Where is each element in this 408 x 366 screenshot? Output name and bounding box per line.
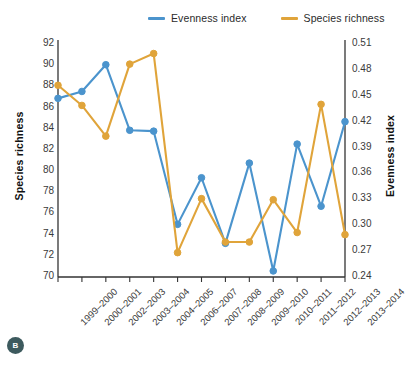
chart-container: Evenness index Species richness Species …	[0, 0, 408, 366]
data-point[interactable]	[246, 239, 253, 246]
data-point[interactable]	[55, 95, 62, 102]
data-point[interactable]	[342, 118, 349, 125]
series-line	[58, 65, 345, 271]
data-point[interactable]	[126, 61, 133, 68]
series-species-richness	[55, 50, 349, 256]
data-point[interactable]	[55, 82, 62, 89]
data-point[interactable]	[318, 101, 325, 108]
data-point[interactable]	[294, 141, 301, 148]
data-point[interactable]	[318, 203, 325, 210]
data-point[interactable]	[198, 174, 205, 181]
data-point[interactable]	[79, 102, 86, 109]
data-point[interactable]	[222, 239, 229, 246]
data-point[interactable]	[246, 160, 253, 167]
series-line	[58, 54, 345, 253]
data-point[interactable]	[270, 196, 277, 203]
plot-area	[0, 0, 408, 366]
data-point[interactable]	[270, 268, 277, 275]
data-point[interactable]	[103, 133, 110, 140]
panel-badge: B	[7, 337, 24, 354]
data-point[interactable]	[342, 231, 349, 238]
data-point[interactable]	[150, 50, 157, 57]
data-point[interactable]	[103, 61, 110, 68]
data-point[interactable]	[150, 128, 157, 135]
data-point[interactable]	[294, 229, 301, 236]
data-point[interactable]	[79, 88, 86, 95]
data-point[interactable]	[174, 249, 181, 256]
data-point[interactable]	[198, 195, 205, 202]
data-point[interactable]	[126, 127, 133, 134]
series-evenness-index	[55, 61, 349, 274]
